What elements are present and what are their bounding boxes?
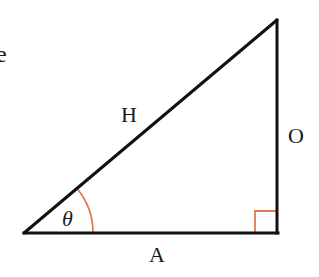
angle-theta-label: θ xyxy=(62,206,73,231)
right-triangle-diagram: e H O A θ xyxy=(0,0,319,277)
partial-left-label: e xyxy=(0,41,7,67)
opposite-label: O xyxy=(288,123,304,148)
adjacent-label: A xyxy=(149,242,165,267)
angle-arc xyxy=(77,189,93,234)
hypotenuse-label: H xyxy=(121,102,137,127)
hypotenuse-side xyxy=(24,20,277,233)
right-angle-marker xyxy=(255,211,277,233)
